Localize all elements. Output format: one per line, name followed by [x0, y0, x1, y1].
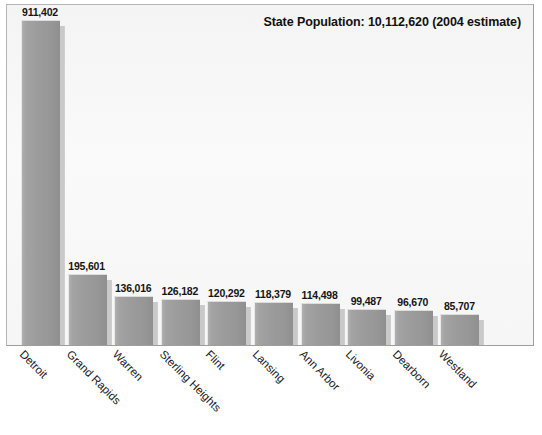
category-label-lansing: Lansing	[251, 348, 288, 385]
bar-ann-arbor[interactable]: 114,498	[301, 304, 345, 345]
category-labels-layer: DetroitGrand RapidsWarrenSterling Height…	[0, 348, 542, 435]
population-bar-chart: State Population: 10,112,620 (2004 estim…	[0, 0, 542, 435]
bar-rect	[114, 296, 153, 345]
bar-value-label: 136,016	[115, 282, 152, 294]
bar-grand-rapids[interactable]: 195,601	[68, 275, 112, 345]
category-label-warren: Warren	[111, 348, 146, 383]
bar-value-label: 85,707	[444, 300, 475, 312]
category-label-detroit: Detroit	[18, 348, 50, 380]
bar-rect	[207, 301, 246, 345]
bar-rect	[254, 302, 293, 345]
bar-value-label: 118,379	[255, 288, 291, 300]
bar-lansing[interactable]: 118,379	[254, 303, 298, 345]
bar-value-label: 114,498	[302, 289, 338, 301]
bar-sterling-heights[interactable]: 126,182	[161, 300, 205, 345]
bar-value-label: 195,601	[68, 260, 105, 272]
category-label-ann-arbor: Ann Arbor	[297, 348, 342, 393]
bar-westland[interactable]: 85,707	[440, 315, 484, 345]
bar-value-label: 120,292	[208, 287, 245, 299]
bar-rect	[68, 274, 107, 345]
bar-value-label: 911,402	[22, 6, 58, 18]
bar-detroit[interactable]: 911,402	[21, 21, 65, 345]
plot-area: State Population: 10,112,620 (2004 estim…	[6, 4, 534, 346]
bars-layer: 911,402195,601136,016126,182120,292118,3…	[7, 5, 533, 345]
bar-rect	[161, 299, 200, 345]
bar-value-label: 99,487	[351, 295, 382, 307]
category-label-livonia: Livonia	[344, 348, 378, 382]
category-label-flint: Flint	[204, 348, 228, 372]
bar-flint[interactable]: 120,292	[207, 302, 251, 345]
bar-dearborn[interactable]: 96,670	[394, 311, 438, 345]
category-label-dearborn: Dearborn	[390, 348, 432, 390]
bar-livonia[interactable]: 99,487	[347, 310, 391, 345]
bar-rect	[301, 303, 340, 345]
bar-rect	[440, 314, 479, 345]
bar-warren[interactable]: 136,016	[114, 297, 158, 345]
bar-rect	[347, 309, 386, 345]
category-label-westland: Westland	[437, 348, 479, 390]
bar-rect	[21, 20, 60, 345]
bar-rect	[394, 310, 433, 345]
bar-value-label: 96,670	[397, 296, 428, 308]
bar-value-label: 126,182	[162, 285, 199, 297]
